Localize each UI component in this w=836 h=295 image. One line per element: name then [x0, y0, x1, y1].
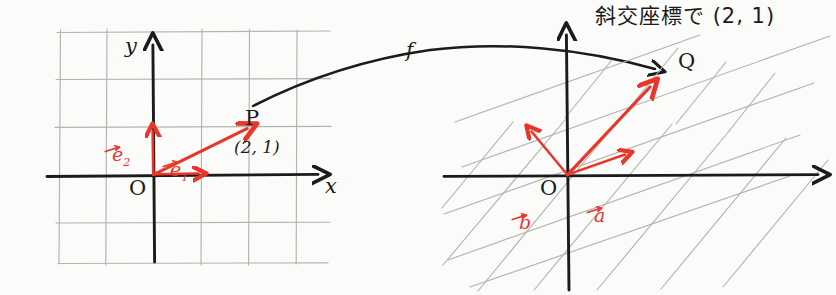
basis-label-e2: e2	[112, 145, 836, 168]
figure-canvas: y x O P (2, 1) e1 e2 f 斜交座標で (2, 1) O Q …	[0, 0, 836, 295]
basis-label-b: b	[519, 213, 836, 232]
basis-e2-index: 2	[123, 156, 130, 169]
map-f-arrow	[253, 46, 655, 106]
point-label-q: Q	[678, 51, 695, 72]
origin-label-left: O	[129, 178, 146, 199]
vector-accent-icon	[104, 145, 121, 154]
vector-accent-icon	[511, 213, 528, 222]
oblique-caption: 斜交座標で (2, 1)	[595, 6, 775, 27]
basis-e1-index: 1	[181, 171, 188, 184]
axis-label-y: y	[125, 36, 137, 57]
point-label-p: P	[245, 108, 259, 129]
origin-label-right: O	[540, 178, 557, 199]
map-label-f: f	[406, 40, 413, 60]
